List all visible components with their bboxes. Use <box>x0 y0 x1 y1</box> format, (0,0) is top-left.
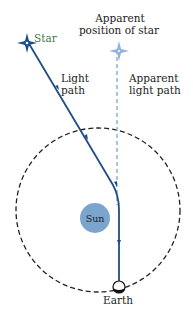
apparent-position-label: Apparent <box>94 12 145 24</box>
light-path-label: path <box>61 84 85 96</box>
light-path-label: Light <box>61 72 90 84</box>
apparent-light-path-label: light path <box>129 84 181 96</box>
apparent-light-path-label: Apparent <box>128 72 179 84</box>
apparent-position-label: position of star <box>79 24 160 36</box>
arrow-icon <box>117 240 121 245</box>
star-label: Star <box>34 32 58 44</box>
light-deflection-diagram: Star Light path Apparent position of sta… <box>0 0 193 317</box>
sun-label: Sun <box>86 213 105 224</box>
apparent-star-icon <box>109 41 129 61</box>
earth-icon <box>113 281 125 293</box>
earth-label: Earth <box>103 294 133 306</box>
